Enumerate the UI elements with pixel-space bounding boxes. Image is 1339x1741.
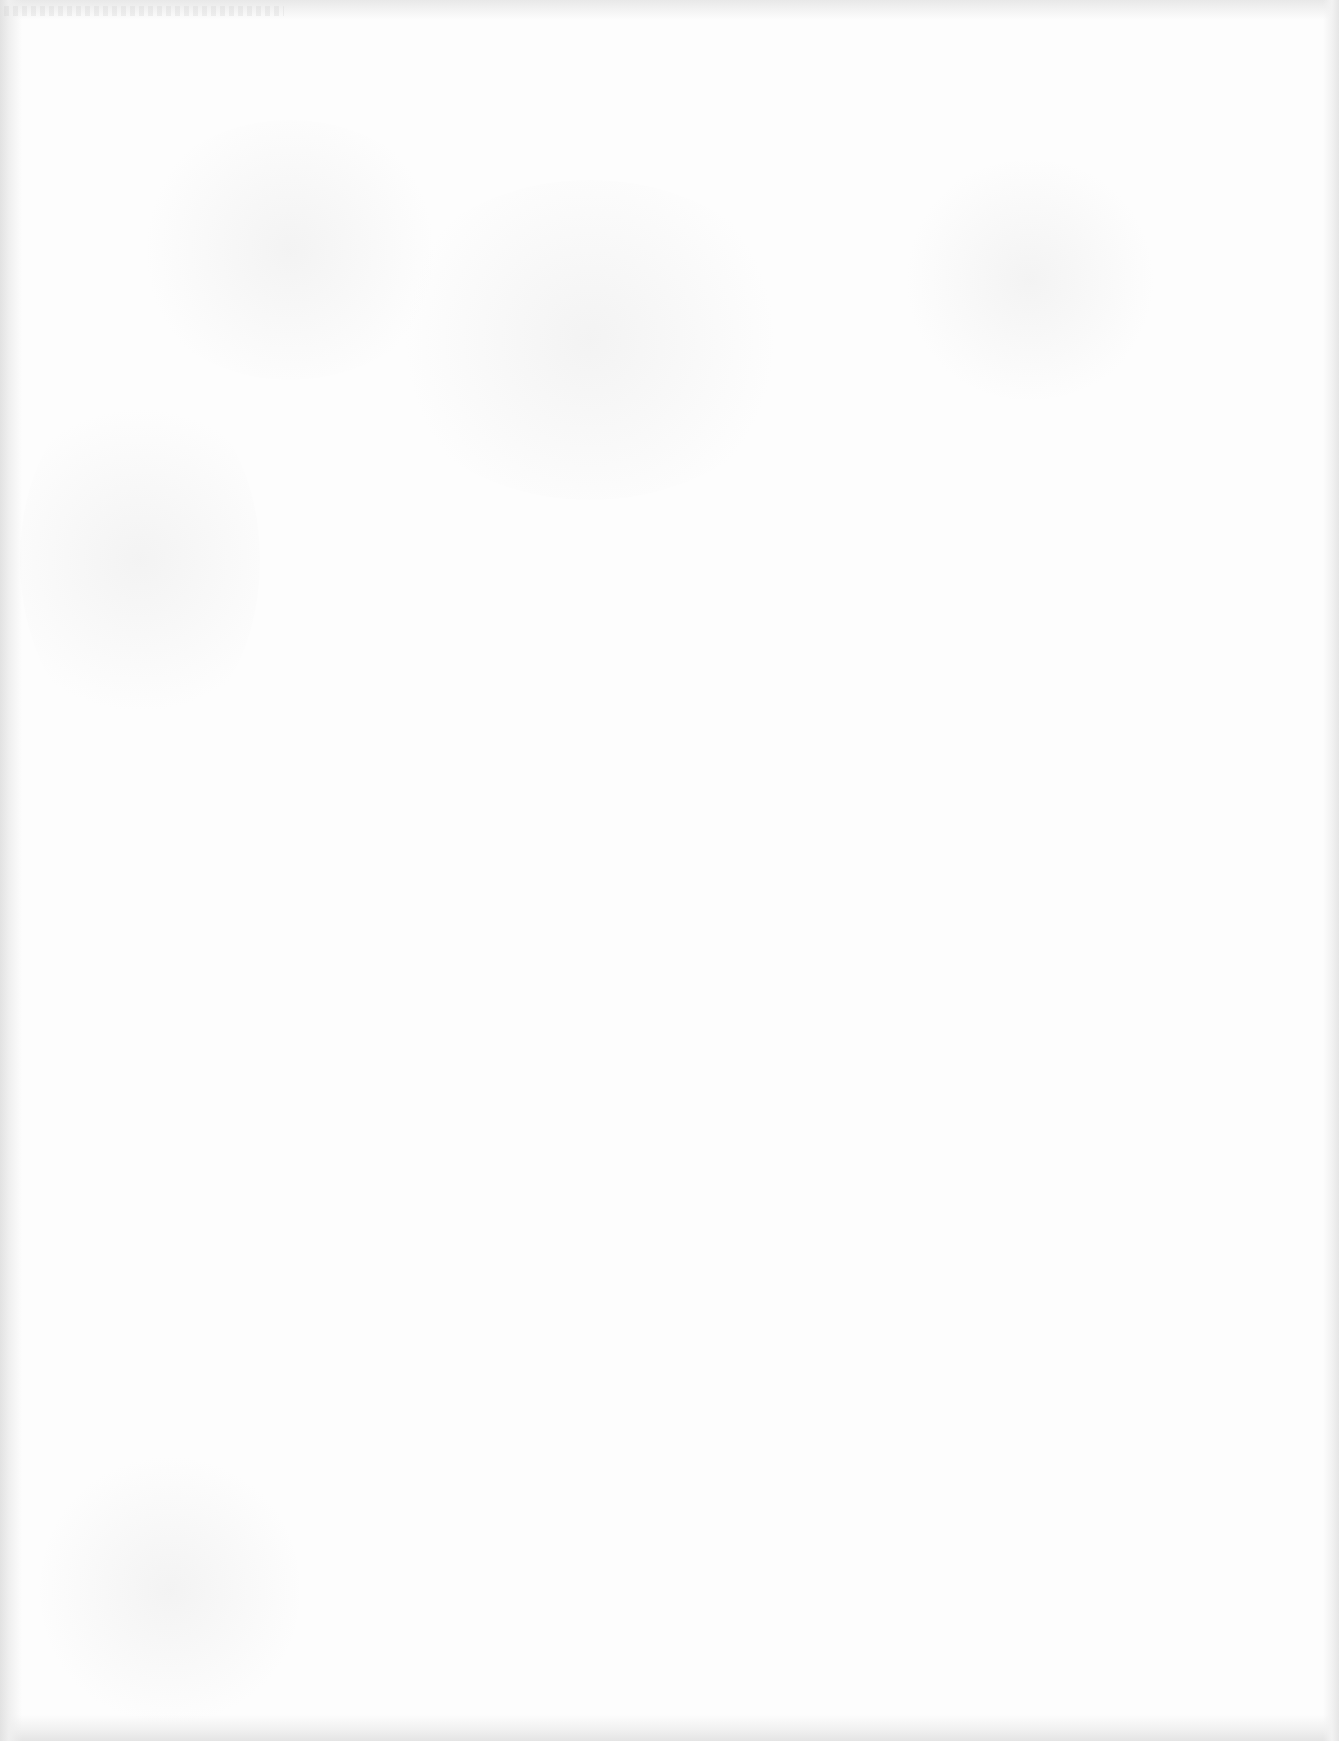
paper-texture-blotch [40, 1450, 300, 1730]
paper-texture-blotch [130, 120, 450, 380]
blank-scanned-page [0, 0, 1339, 1741]
scan-edge-left [0, 0, 22, 1741]
paper-texture-blotch [20, 380, 260, 740]
paper-texture-blotch [380, 180, 800, 500]
scan-edge-bottom [0, 1715, 1339, 1741]
scan-edge-right [1323, 0, 1339, 1741]
paper-texture-blotch [900, 160, 1160, 400]
illegible-bleed-through [4, 6, 284, 16]
